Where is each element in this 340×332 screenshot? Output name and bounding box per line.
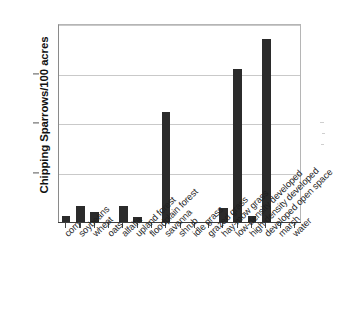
chipping-sparrow-bar-chart: Chipping Sparrows/100 acres 010203040 co… [0,0,340,332]
y-tick-mark [33,172,39,173]
scan-artifact [321,144,324,145]
scan-artifact [322,133,325,134]
y-tick-mark [33,122,39,123]
y-tick-mark [33,73,39,74]
y-axis-title: Chipping Sparrows/100 acres [36,10,52,220]
scan-artifact [320,122,324,123]
bar [119,206,128,222]
bar [76,206,85,222]
